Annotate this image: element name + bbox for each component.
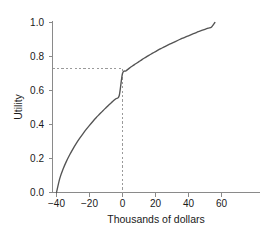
utility-curve-chart: 1.0 0.8 0.6 0.4 0.2 0.0 −40 −20 0 20 40 … bbox=[0, 0, 268, 234]
x-axis-title: Thousands of dollars bbox=[107, 213, 204, 225]
x-axis-ticks bbox=[57, 193, 222, 197]
x-tick-label-5: 60 bbox=[216, 198, 228, 209]
y-tick-label-0: 0.0 bbox=[30, 187, 44, 198]
chart-figure: 1.0 0.8 0.6 0.4 0.2 0.0 −40 −20 0 20 40 … bbox=[0, 0, 268, 234]
y-tick-label-1: 0.2 bbox=[30, 153, 44, 164]
x-tick-label-4: 40 bbox=[183, 198, 195, 209]
x-tick-label-1: −20 bbox=[81, 198, 98, 209]
x-tick-label-0: −40 bbox=[48, 198, 65, 209]
y-axis-tick-labels: 1.0 0.8 0.6 0.4 0.2 0.0 bbox=[30, 17, 44, 198]
y-tick-label-2: 0.4 bbox=[30, 119, 44, 130]
x-axis-tick-labels: −40 −20 0 20 40 60 bbox=[48, 198, 227, 209]
utility-curve-line bbox=[57, 23, 215, 193]
y-axis-title: Utility bbox=[12, 93, 24, 119]
x-tick-label-3: 20 bbox=[150, 198, 162, 209]
x-tick-label-2: 0 bbox=[120, 198, 126, 209]
y-tick-label-5: 1.0 bbox=[30, 17, 44, 28]
axis-spines bbox=[53, 21, 260, 193]
y-tick-label-4: 0.8 bbox=[30, 51, 44, 62]
y-axis-ticks bbox=[49, 23, 53, 193]
y-tick-label-3: 0.6 bbox=[30, 85, 44, 96]
reference-lines bbox=[53, 69, 123, 193]
